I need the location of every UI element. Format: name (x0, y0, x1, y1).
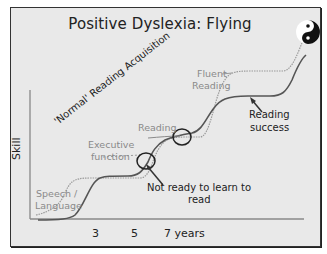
speech-label-2: Language (35, 200, 82, 212)
reading-success-label-1: Reading (249, 109, 290, 121)
fluent-reading-label-2: Reading (192, 80, 231, 92)
executive-label-2: function (91, 151, 130, 163)
not-ready-label-2: read (188, 194, 211, 206)
not-ready-label-1: Not ready to learn to (147, 182, 251, 194)
x-tick-3: 3 (92, 227, 99, 240)
reading-label: Reading (138, 122, 177, 134)
fluent-reading-label-1: Fluent (197, 68, 227, 80)
slide-title: Positive Dyslexia: Flying (10, 15, 310, 33)
y-axis-label: Skill (11, 137, 23, 160)
yin-yang-icon (295, 19, 321, 45)
reading-success-label-2: success (250, 122, 289, 134)
speech-label-1: Speech / (36, 188, 77, 200)
executive-label-1: Executive (88, 139, 134, 151)
dyslexic-development-curve (38, 55, 306, 220)
x-tick-5: 5 (131, 227, 138, 240)
x-tick-7-years: 7 years (164, 227, 205, 240)
